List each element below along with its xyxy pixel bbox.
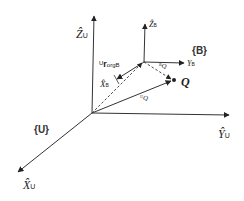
body-frame-label: {B} (192, 46, 207, 56)
y-u-axis (92, 113, 229, 115)
x-b-tick (114, 75, 119, 84)
y-u-label: ŶU (218, 128, 230, 140)
q-in-u-base: Q (143, 94, 148, 102)
z-u-label: ẐU (76, 28, 88, 40)
y-b-sub: B (191, 61, 194, 67)
q-in-u-label: UQ (140, 95, 148, 102)
z-b-label: ẐB (149, 21, 157, 29)
point-q-label: Q (181, 76, 190, 88)
z-u-base: Ẑ (76, 27, 83, 41)
z-u-axis (92, 16, 94, 113)
z-b-axis (144, 24, 145, 62)
x-u-axis (18, 113, 92, 172)
q-in-b-label: BQ (159, 63, 167, 70)
coordinate-frames-diagram (0, 0, 244, 201)
z-u-sub: U (83, 32, 88, 39)
x-u-sub: U (30, 183, 35, 190)
z-b-sub: B (153, 22, 156, 28)
origin-offset-sub: orgB (107, 62, 120, 68)
y-b-label: YB (187, 60, 195, 68)
origin-offset-label: UrorgB (99, 60, 120, 69)
q-in-b-base: Q (161, 62, 166, 70)
x-u-label: X̂U (23, 179, 35, 191)
point-q (172, 78, 176, 82)
y-u-base: Ŷ (218, 127, 225, 141)
x-b-label: X̂B (100, 80, 109, 89)
q-in-b-vector (144, 62, 171, 79)
universe-frame-label: {U} (34, 125, 49, 135)
y-u-sub: U (225, 132, 230, 139)
x-b-sub: B (106, 82, 109, 88)
